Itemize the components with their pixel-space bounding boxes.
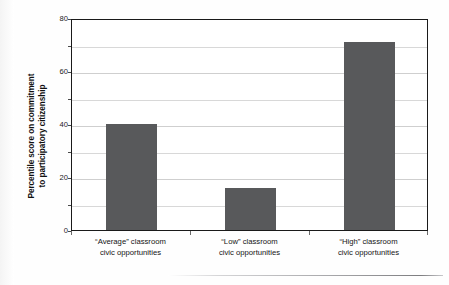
x-axis-label-2: “High” classroomcivic opportunities [309, 236, 428, 258]
bar-2 [344, 42, 395, 230]
x-tick-mark-0 [71, 231, 72, 235]
scan-artifact-bottom-rule [168, 275, 443, 276]
bar-0 [106, 124, 157, 230]
bar-chart-figure: Percentile score on commitment to partic… [0, 0, 449, 285]
x-axis-label-0: “Average” classroomcivic opportunities [71, 236, 190, 258]
x-axis-category-labels: “Average” classroomcivic opportunities“L… [71, 236, 428, 270]
y-axis-title-line-1: Percentile score on commitment [27, 74, 36, 199]
x-tick-mark-2 [309, 231, 310, 235]
x-axis-label-0-line-1: “Average” classroom [95, 237, 166, 246]
scan-artifact-left-edge [0, 0, 14, 285]
x-axis-label-1-line-2: civic opportunities [190, 247, 309, 258]
x-axis-label-1-line-1: “Low” classroom [221, 237, 277, 246]
x-tick-mark-3 [427, 231, 428, 235]
x-axis-label-0-line-2: civic opportunities [71, 247, 190, 258]
bar-1 [225, 188, 276, 230]
plot-area [71, 19, 428, 231]
x-axis-label-2-line-2: civic opportunities [309, 247, 428, 258]
x-axis-label-1: “Low” classroomcivic opportunities [190, 236, 309, 258]
x-tick-mark-1 [190, 231, 191, 235]
x-axis-label-2-line-1: “High” classroom [339, 237, 397, 246]
